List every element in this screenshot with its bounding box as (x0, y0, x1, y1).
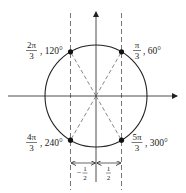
label-240-den: 3 (29, 143, 34, 153)
label-300-den: 3 (135, 143, 140, 153)
label-300-num: 5π (132, 132, 142, 142)
label-120-degrees: , 120° (40, 46, 63, 56)
half-num: 1 (107, 165, 111, 173)
label-300: 5π 3 , 300° (132, 132, 169, 153)
half-den: 2 (107, 174, 111, 182)
radius-240 (71, 96, 97, 140)
dimension-label-neg-half: − 1 2 (77, 165, 88, 182)
radius-300 (96, 96, 122, 140)
label-60-num: π (135, 40, 140, 50)
dimension-label-half: 1 2 (106, 165, 111, 182)
point-120 (68, 49, 73, 54)
neg-half-num: 1 (83, 165, 87, 173)
radius-120 (71, 52, 97, 96)
label-240-degrees: , 240° (40, 138, 63, 148)
radius-60 (96, 52, 122, 96)
label-60-den: 3 (135, 51, 140, 61)
label-120: 2π 3 , 120° (26, 40, 63, 61)
label-120-num: 2π (27, 40, 37, 50)
neg-half-den: 2 (83, 174, 87, 182)
point-240 (68, 138, 73, 143)
label-300-degrees: , 300° (145, 138, 168, 148)
point-300 (119, 138, 124, 143)
neg-sign: − (77, 168, 82, 177)
label-60-degrees: , 60° (143, 46, 161, 56)
point-60 (119, 49, 124, 54)
label-240: 4π 3 , 240° (26, 132, 63, 153)
label-60: π 3 , 60° (133, 40, 161, 61)
label-240-num: 4π (27, 132, 37, 142)
unit-circle-diagram: 2π 3 , 120° π 3 , 60° 4π 3 , 240° 5π 3 ,… (0, 0, 186, 193)
label-120-den: 3 (29, 51, 34, 61)
